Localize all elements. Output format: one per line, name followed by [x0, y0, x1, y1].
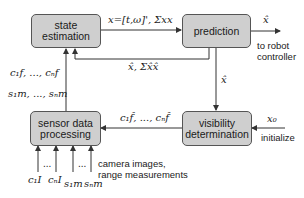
visibility-determination-block: visibility determination [182, 111, 252, 146]
feedback-estimate-label: x̂, Σx̂x̂ [128, 61, 158, 72]
state-estimation-diagram: state estimation prediction sensor data … [0, 0, 304, 198]
state-estimation-label: state estimation [42, 20, 90, 42]
state-vector-label: x=[t,ω]', Σxx [108, 14, 173, 25]
to-robot-controller-label: to robot controller [257, 40, 296, 62]
initialize-label: initialize [261, 132, 295, 143]
state-estimation-block: state estimation [31, 14, 101, 48]
sensor-input-s1-label: s₁m [64, 178, 83, 189]
sensor-input-ellipsis-2: ... [78, 158, 86, 169]
visibility-input-label: x̂ [221, 74, 227, 85]
prediction-label: prediction [194, 26, 240, 37]
prediction-output-label: x̂ [263, 14, 269, 25]
sensor-input-c1-label: c₁I [28, 174, 42, 185]
sensor-input-ellipsis-1: ... [43, 158, 51, 169]
sensor-inputs-caption: camera images, range measurements [98, 158, 188, 180]
measurements-label: s₁m, ..., sₙm [8, 88, 68, 99]
sensor-input-cn-label: cₙI [48, 174, 62, 185]
initial-state-label: x₀ [267, 113, 277, 124]
predicted-features-label: c₁f̂, ..., cₙf̂ [120, 112, 169, 123]
sensor-data-processing-block: sensor data processing [30, 111, 101, 146]
visibility-determination-label: visibility determination [185, 118, 249, 140]
sensor-data-processing-label: sensor data processing [38, 118, 93, 140]
prediction-block: prediction [182, 14, 251, 48]
extracted-features-label: c₁f, ..., cₙf [10, 67, 59, 78]
